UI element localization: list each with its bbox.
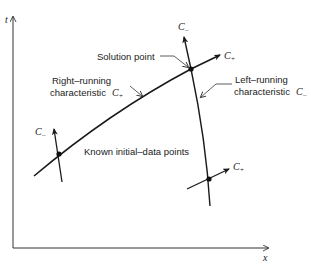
c-plus-top-symbol: C: [224, 50, 231, 61]
left-running-label-line2: characteristic: [234, 86, 290, 97]
known-point-right-dot: [206, 176, 211, 181]
c-plus-right-symbol: C: [233, 161, 240, 172]
right-running-symbol: C: [112, 87, 119, 98]
left-running-symbol: C: [296, 86, 303, 97]
right-running-label-line2: characteristic: [50, 87, 106, 98]
solution-point-dot: [188, 66, 193, 71]
c-minus-top-symbol: C: [178, 21, 185, 32]
known-points-label: Known initial–data points: [84, 146, 189, 157]
solution-point-label: Solution point: [97, 51, 155, 62]
right-running-leader: [130, 86, 142, 96]
known-point-left-dot: [56, 151, 61, 156]
c-plus-right-sub: +: [240, 166, 244, 174]
left-running-sub: –: [302, 91, 307, 99]
x-axis-label: x: [262, 252, 268, 263]
right-running-sub: +: [119, 92, 123, 100]
c-minus-left-sub: –: [41, 131, 46, 139]
solution-point-leader: [160, 56, 188, 67]
c-minus-top-sub: –: [184, 26, 189, 34]
right-running-label-line1: Right–running: [52, 75, 111, 86]
c-plus-top-sub: +: [231, 55, 235, 63]
t-axis-label: t: [5, 14, 8, 25]
characteristics-diagram: t x Solution point Right–running charact…: [0, 0, 311, 266]
c-minus-left-symbol: C: [35, 126, 42, 137]
left-running-leader: [201, 84, 232, 97]
left-running-label-line1: Left–running: [235, 74, 288, 85]
